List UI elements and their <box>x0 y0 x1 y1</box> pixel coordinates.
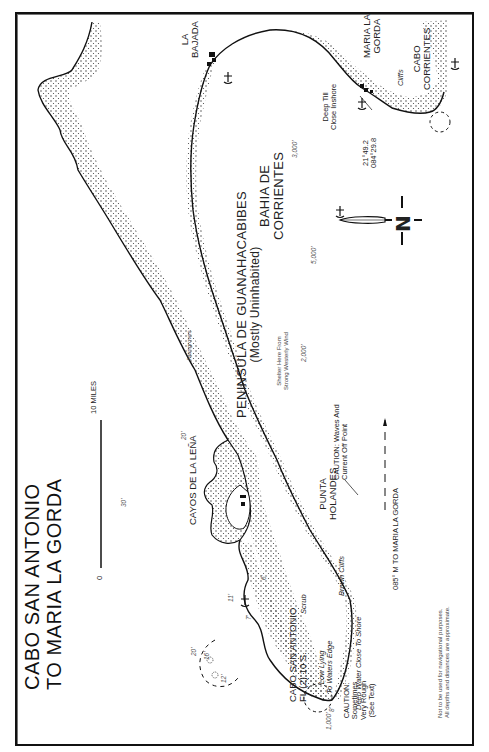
depth-12: 12' <box>220 675 227 683</box>
depth-11: 11' <box>227 594 234 602</box>
low-lying-line-2: To Waters Edge <box>326 641 334 694</box>
compass-north-label: N <box>392 215 414 232</box>
depth-8: 8' <box>328 707 335 712</box>
scale-end-label: 10 MILES <box>90 381 98 414</box>
caution-rough-line-4: (See Text) <box>368 681 376 720</box>
la-bajada-line-2: BAJADA <box>190 21 200 58</box>
light-characteristic: FL (2) 10 S. <box>298 608 308 702</box>
depth-30: 30' <box>120 499 127 507</box>
depth-5000: 5,000' <box>310 246 317 264</box>
bay-line-2: CORRIENTES <box>272 152 286 240</box>
cliffs-note: Cliffs <box>397 69 405 86</box>
reef-dashed-arc <box>200 640 238 687</box>
depth-3000: 3,000' <box>291 140 298 158</box>
cabo-corrientes-label: CABO CORRIENTES <box>412 28 433 90</box>
maria-la-gorda-line-2: GORDA <box>372 14 382 58</box>
mangroves-note: Mangroves <box>186 330 193 360</box>
course-note: 085° M TO MARIA LA GORDA <box>392 488 400 590</box>
bay-label: BAHIA DE CORRIENTES <box>258 152 287 240</box>
maria-la-gorda-label: MARIA LA GORDA <box>362 14 383 58</box>
bay-line-1: BAHIA DE <box>258 152 272 240</box>
depth-1000: 1,000' <box>325 712 332 730</box>
caution-rough-note: CAUTION: Sometimes Very Rough (See Text) <box>343 681 376 720</box>
caution-point-note: CAUTION: Waves And Current Off Point <box>333 404 350 480</box>
disclaimer-line-1: Not to be used for navigational purposes… <box>437 606 444 718</box>
shelter-note: Shelter Here From Strong Westerly Wind <box>276 332 289 390</box>
caution-point-line-2: Current Off Point <box>341 404 349 480</box>
scrub-note: Scrub <box>300 594 308 614</box>
cabo-san-antonio-label: CABO SAN ANTONIO FL (2) 10 S. <box>288 608 309 702</box>
disclaimer: Not to be used for navigational purposes… <box>437 606 450 718</box>
depth-20a: 20' <box>180 432 187 440</box>
depth-2000: 2,000' <box>300 344 307 362</box>
depth-16: 16' <box>203 652 210 660</box>
deep-till-note: Deep Till Close Inshore <box>322 84 339 130</box>
brown-cliffs-note: Brown Cliffs <box>338 556 346 596</box>
deep-till-line-2: Close Inshore <box>330 84 338 130</box>
low-lying-note: Low Lying To Waters Edge <box>318 641 335 694</box>
shelter-line-2: Strong Westerly Wind <box>283 332 290 390</box>
la-bajada-label: LA BAJADA <box>180 21 201 58</box>
cabo-corrientes-line-2: CORRIENTES <box>422 28 432 90</box>
title-line-1: CABO SAN ANTONIO <box>22 478 44 690</box>
cays-label: CAYOS DE LA LEÑA <box>188 435 198 525</box>
depth-7: 7' <box>245 615 252 620</box>
position-note: 21°49.2 084°29.8 <box>362 138 379 168</box>
shelter-line-1: Shelter Here From <box>276 332 283 390</box>
depth-6: 6' <box>260 575 267 580</box>
depth-20b: 20' <box>190 648 197 656</box>
position-lon: 084°29.8 <box>370 138 378 168</box>
title-line-2: TO MARIA LA GORDA <box>44 478 66 690</box>
disclaimer-line-2: All depths and distances are approximate… <box>444 606 451 718</box>
map-title: CABO SAN ANTONIO TO MARIA LA GORDA <box>22 478 65 690</box>
scale-start-label: 0 <box>96 576 104 580</box>
cabo-corrientes-light-circle <box>430 112 450 132</box>
peninsula-name: PENINSULA DE GUANAHACABIBES <box>235 191 249 418</box>
